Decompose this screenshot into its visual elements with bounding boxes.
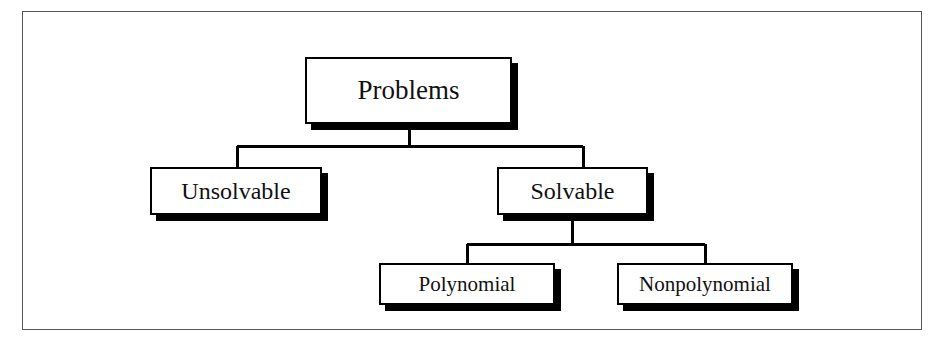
- node-solvable[interactable]: Solvable: [497, 167, 648, 215]
- node-problems-label: Problems: [357, 77, 459, 104]
- diagram-figure: Problems Unsolvable Solvable Polynomial …: [0, 0, 936, 343]
- node-polynomial[interactable]: Polynomial: [379, 263, 555, 305]
- node-nonpolynomial-label: Nonpolynomial: [639, 274, 771, 295]
- node-unsolvable[interactable]: Unsolvable: [150, 167, 322, 215]
- node-unsolvable-label: Unsolvable: [181, 179, 290, 203]
- node-solvable-label: Solvable: [531, 179, 615, 203]
- node-polynomial-label: Polynomial: [419, 274, 516, 295]
- node-nonpolynomial[interactable]: Nonpolynomial: [617, 263, 793, 305]
- node-problems[interactable]: Problems: [305, 57, 512, 124]
